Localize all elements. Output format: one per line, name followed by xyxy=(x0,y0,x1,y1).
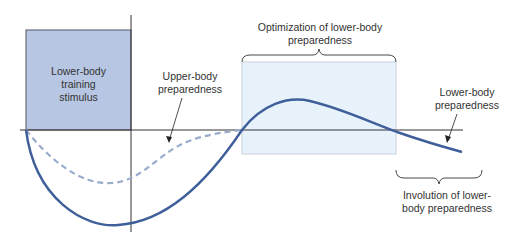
stimulus-label: Lower-body training stimulus xyxy=(30,65,127,104)
stimulus-line-2: training xyxy=(30,78,127,91)
optimization-label: Optimization of lower-body preparedness xyxy=(245,21,395,47)
arrowhead-icon xyxy=(445,135,451,143)
upper-body-curve xyxy=(26,130,242,183)
upper-body-line-2: preparedness xyxy=(140,83,240,96)
stimulus-line-1: Lower-body xyxy=(30,65,127,78)
arrowhead-icon xyxy=(166,136,172,143)
lower-body-pointer xyxy=(448,114,457,140)
involution-line-1: Involution of lower- xyxy=(392,189,502,202)
upper-body-pointer xyxy=(169,98,182,141)
stimulus-line-3: stimulus xyxy=(30,91,127,104)
involution-line-2: body preparedness xyxy=(392,202,502,215)
involution-brace xyxy=(396,170,482,184)
upper-body-line-1: Upper-body xyxy=(140,70,240,83)
lower-body-label: Lower-body preparedness xyxy=(423,86,511,112)
lower-body-line-1: Lower-body xyxy=(423,86,511,99)
involution-label: Involution of lower- body preparedness xyxy=(392,189,502,215)
upper-body-label: Upper-body preparedness xyxy=(140,70,240,96)
optimization-line-1: Optimization of lower-body xyxy=(245,21,395,34)
optimization-brace xyxy=(242,49,396,62)
optimization-line-2: preparedness xyxy=(245,34,395,47)
lower-body-line-2: preparedness xyxy=(423,99,511,112)
